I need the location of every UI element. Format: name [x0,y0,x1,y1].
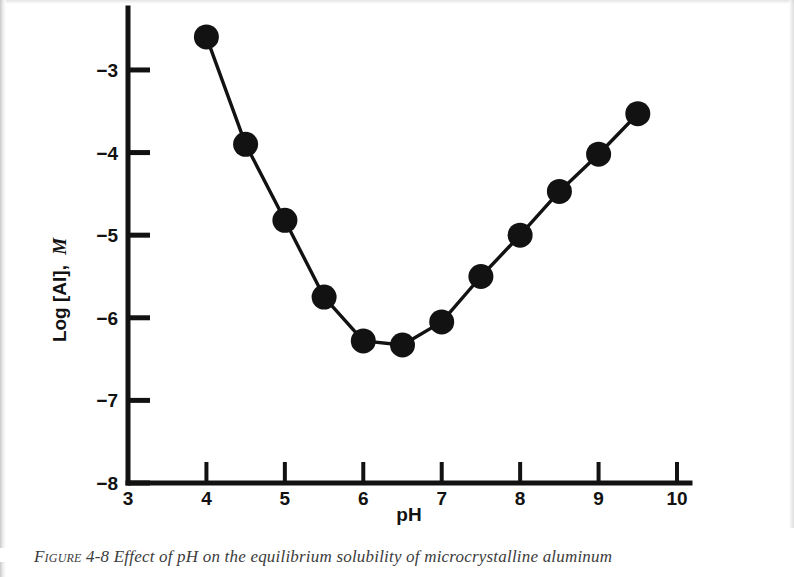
figure-page: −3−4−5−6−7−8 345678910 Log [Al], M pH Fi… [0,0,794,577]
x-tick-label: 5 [280,488,291,509]
figure-plot-area: −3−4−5−6−7−8 345678910 Log [Al], M pH [0,0,794,528]
x-axis-ticks [206,462,677,483]
x-tick-label: 6 [358,488,369,509]
x-tick-label: 4 [201,488,212,509]
y-axis-title-text: Log [Al], M [49,237,70,342]
x-axis-title: pH [396,504,421,525]
y-axis-ticks [128,70,150,483]
y-tick-label: −3 [96,60,118,81]
y-axis-title-main: Log [Al], [49,265,70,342]
y-tick-label: −6 [96,308,118,329]
data-point-marker [468,264,493,289]
y-tick-label: −7 [96,390,118,411]
y-tick-label: −4 [96,143,118,164]
data-point-marker [233,132,258,157]
data-point-marker [547,179,572,204]
y-axis-tick-labels: −3−4−5−6−7−8 [96,60,118,494]
data-point-marker [272,208,297,233]
x-tick-label: 8 [515,488,526,509]
x-tick-label: 7 [436,488,447,509]
y-axis-title: Log [Al], M [49,237,70,342]
y-tick-label: −5 [96,225,118,246]
data-point-marker [194,24,219,49]
data-point-marker [429,309,454,334]
caption-label: Figure 4-8 [34,548,109,566]
data-point-marker [351,328,376,353]
data-point-marker [586,142,611,167]
y-tick-label: −8 [96,473,118,494]
data-point-marker [625,101,650,126]
data-point-marker [312,285,337,310]
x-tick-label: 10 [666,488,687,509]
figure-caption: Figure 4-8 Effect of pH on the equilibri… [0,548,794,577]
caption-body: Effect of pH on the equilibrium solubili… [114,548,612,566]
data-point-marker [390,333,415,358]
y-axis-title-unit: M [49,237,70,256]
caption-line: Figure 4-8 Effect of pH on the equilibri… [34,548,786,568]
chart-axes [128,8,690,483]
x-tick-label: 9 [593,488,604,509]
solubility-chart: −3−4−5−6−7−8 345678910 Log [Al], M pH [0,0,794,528]
data-point-marker [508,223,533,248]
data-series-markers [194,24,650,357]
x-tick-label: 3 [123,488,134,509]
data-series-line [206,37,637,345]
